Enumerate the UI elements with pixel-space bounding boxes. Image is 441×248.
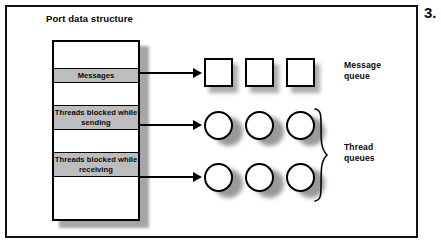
thread-queues-brace	[312, 107, 330, 203]
thread-item	[204, 163, 233, 192]
arrow-head-icon	[193, 172, 202, 182]
message-queue-label-line1: Message	[344, 60, 381, 70]
thread-item	[204, 111, 233, 140]
message-item	[204, 58, 233, 87]
arrow-shaft	[140, 72, 194, 74]
arrow-receiving-to-thread-queue	[140, 172, 203, 182]
port-band-threads-sending: Threads blocked while sending	[54, 105, 138, 130]
arrow-sending-to-thread-queue	[140, 120, 203, 130]
arrow-head-icon	[193, 120, 202, 130]
arrow-head-icon	[193, 68, 202, 78]
arrow-messages-to-message-queue	[140, 68, 203, 78]
arrow-shaft	[140, 124, 194, 126]
thread-item	[245, 111, 274, 140]
arrow-shaft	[140, 176, 194, 178]
port-band-empty-2	[54, 130, 138, 152]
thread-item	[286, 111, 315, 140]
thread-item	[245, 163, 274, 192]
figure-number: 3.	[424, 5, 437, 21]
port-band-messages: Messages	[54, 68, 138, 83]
port-band-threads-receiving: Threads blocked while receiving	[54, 152, 138, 177]
port-data-structure-column: Messages Threads blocked while sending T…	[52, 40, 140, 221]
thread-item	[286, 163, 315, 192]
port-band-empty-top	[54, 42, 138, 68]
diagram-title: Port data structure	[46, 13, 133, 24]
diagram-canvas: 3. Port data structure Messages Threads …	[0, 0, 441, 248]
port-band-empty-bottom	[54, 177, 138, 203]
thread-queues-label-line2: queues	[344, 153, 375, 163]
thread-queues-label-line1: Thread	[344, 142, 373, 152]
message-item	[245, 58, 274, 87]
figure-frame: Port data structure Messages Threads blo…	[5, 5, 418, 238]
port-band-empty-1	[54, 83, 138, 105]
thread-queues-label: Thread queues	[344, 142, 375, 164]
message-queue-label: Message queue	[344, 60, 381, 82]
message-queue-label-line2: queue	[344, 71, 370, 81]
message-item	[286, 58, 315, 87]
